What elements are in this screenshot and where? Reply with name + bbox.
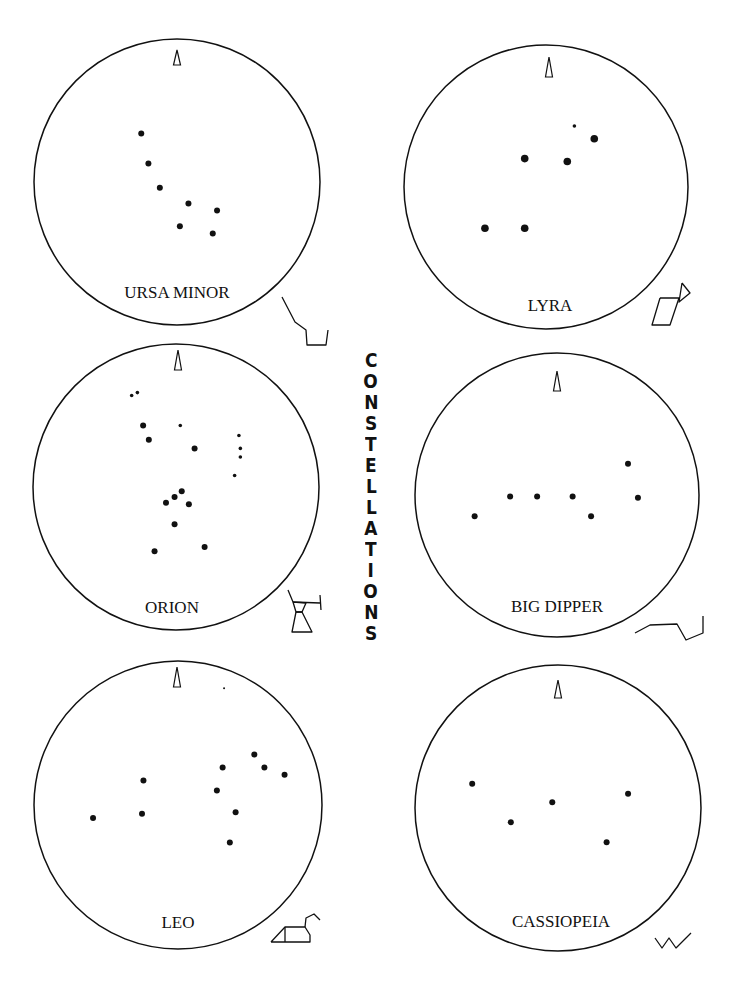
chart-ursa-minor: URSA MINOR — [34, 39, 328, 345]
star — [138, 130, 144, 136]
star-group — [138, 130, 220, 236]
star — [239, 455, 243, 459]
title-letter: C — [365, 350, 377, 371]
north-arrow-icon — [174, 50, 181, 65]
star — [469, 781, 475, 787]
title-letter: N — [364, 602, 378, 623]
constellation-label: BIG DIPPER — [511, 597, 604, 616]
constellation-figure — [652, 283, 690, 325]
star — [145, 160, 151, 166]
star-group — [481, 124, 598, 232]
star — [564, 158, 572, 166]
star-group — [469, 781, 631, 846]
star — [521, 155, 529, 163]
star — [223, 687, 225, 689]
star — [549, 799, 555, 805]
star-group — [472, 461, 641, 520]
constellation-label: CASSIOPEIA — [512, 912, 611, 931]
chart-lyra: LYRA — [404, 45, 690, 329]
star — [588, 513, 594, 519]
star — [163, 500, 169, 506]
star-group — [130, 391, 242, 555]
chart-cassiopeia: CASSIOPEIA — [415, 665, 701, 951]
star — [192, 445, 198, 451]
star — [220, 765, 226, 771]
constellation-figure — [655, 933, 691, 948]
star — [90, 815, 96, 821]
title-letter: T — [365, 539, 377, 560]
star — [152, 548, 158, 554]
star — [146, 437, 152, 443]
figure-stroke — [655, 933, 691, 948]
star — [508, 819, 514, 825]
title-letter: E — [365, 455, 377, 476]
star — [210, 230, 216, 236]
title-letter: T — [365, 434, 377, 455]
star — [239, 447, 243, 451]
star — [186, 501, 192, 507]
title-letter: A — [364, 518, 377, 539]
star — [570, 493, 576, 499]
figure-stroke — [292, 612, 312, 632]
star — [251, 752, 257, 758]
star — [233, 809, 239, 815]
sky-circle — [404, 45, 688, 329]
star — [261, 765, 267, 771]
star — [178, 424, 182, 428]
star — [202, 544, 208, 550]
figure-stroke — [652, 298, 679, 325]
star — [214, 208, 220, 214]
constellation-label: URSA MINOR — [124, 283, 230, 302]
figure-stroke — [635, 616, 703, 640]
chart-big-dipper: BIG DIPPER — [415, 353, 703, 640]
star — [237, 434, 241, 438]
chart-leo: LEO — [34, 661, 322, 949]
constellation-figure — [282, 297, 328, 345]
figure-stroke — [282, 297, 328, 345]
figure-stroke — [271, 927, 310, 942]
title-letter: I — [368, 560, 374, 581]
star — [227, 839, 233, 845]
star — [625, 461, 631, 467]
north-arrow-icon — [175, 350, 182, 370]
title-letter: N — [364, 392, 378, 413]
star — [130, 394, 134, 398]
star — [140, 778, 146, 784]
north-arrow-icon — [555, 680, 562, 698]
figure-stroke — [305, 914, 320, 927]
star — [136, 391, 140, 395]
star — [179, 488, 185, 494]
page-title: CONSTELLATIONS — [359, 350, 383, 644]
title-letter: O — [364, 371, 378, 392]
north-arrow-icon — [174, 667, 181, 687]
star — [214, 788, 220, 794]
star — [282, 772, 288, 778]
star — [625, 791, 631, 797]
constellation-figure — [635, 616, 703, 640]
star — [157, 185, 163, 191]
star — [573, 124, 577, 128]
star — [521, 224, 529, 232]
figure-stroke — [288, 590, 320, 603]
star — [507, 493, 513, 499]
sky-circle — [415, 665, 701, 951]
title-letter: L — [366, 476, 377, 497]
star — [590, 135, 598, 143]
star — [172, 521, 178, 527]
constellation-figure — [288, 590, 321, 632]
star — [172, 494, 178, 500]
star — [534, 493, 540, 499]
constellation-label: LEO — [161, 913, 194, 932]
star — [233, 474, 237, 478]
star — [481, 224, 489, 232]
sky-circle — [33, 344, 319, 630]
title-letter: S — [365, 623, 377, 644]
star — [635, 495, 641, 501]
star — [177, 223, 183, 229]
star-group — [90, 687, 288, 845]
title-letter: S — [365, 413, 377, 434]
star — [140, 423, 146, 429]
chart-orion: ORION — [33, 344, 321, 632]
figure-stroke — [293, 602, 306, 612]
title-letter: L — [366, 497, 377, 518]
